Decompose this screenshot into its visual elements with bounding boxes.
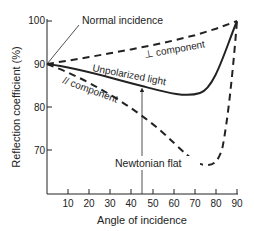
chart: 100 90 80 70 10 20 30 40 50 60 70 80 90 … <box>0 0 254 231</box>
svg-text:70: 70 <box>189 198 201 209</box>
series-perpendicular <box>47 21 237 64</box>
normal-incidence-pointer <box>47 25 79 64</box>
svg-text:50: 50 <box>147 198 159 209</box>
parallel-label: // component <box>61 75 119 105</box>
svg-text:90: 90 <box>34 59 46 70</box>
x-axis-label: Angle of incidence <box>97 214 187 226</box>
x-ticks <box>68 189 237 194</box>
svg-text:20: 20 <box>83 198 95 209</box>
svg-text:80: 80 <box>210 198 222 209</box>
newtonian-flat-label: Newtonian flat <box>115 157 182 169</box>
perpendicular-label: ⊥ component <box>143 38 205 60</box>
svg-text:60: 60 <box>168 198 180 209</box>
svg-text:30: 30 <box>104 198 116 209</box>
y-tick-labels: 100 90 80 70 <box>28 15 45 156</box>
normal-incidence-label: Normal incidence <box>82 14 163 26</box>
svg-text:70: 70 <box>34 145 46 156</box>
svg-text:40: 40 <box>125 198 137 209</box>
svg-text:80: 80 <box>34 102 46 113</box>
svg-text:100: 100 <box>28 15 45 26</box>
x-tick-labels: 10 20 30 40 50 60 70 80 90 <box>62 198 243 209</box>
y-axis-label: Reflection coefficient (%) <box>10 46 22 167</box>
svg-text:90: 90 <box>231 198 243 209</box>
y-ticks <box>47 21 52 150</box>
svg-text:10: 10 <box>62 198 74 209</box>
